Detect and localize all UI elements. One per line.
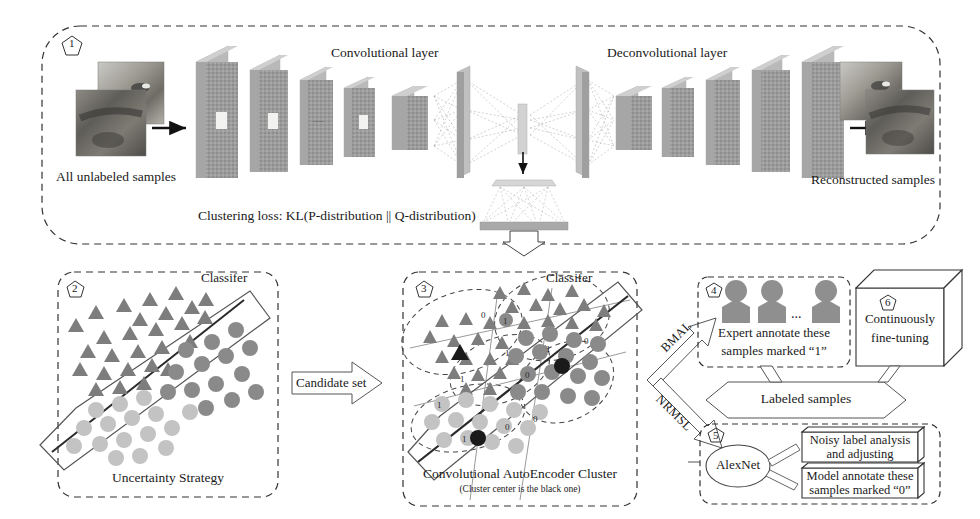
panel-2-triangles bbox=[68, 286, 214, 396]
convolutional-layer-label: Convolutional layer bbox=[331, 45, 439, 61]
expert-person-icons bbox=[722, 280, 840, 323]
svg-text:0: 0 bbox=[525, 370, 530, 380]
alexnet-to-box2-connector bbox=[766, 470, 798, 490]
model-annotate-line1: Model annotate these bbox=[800, 469, 920, 483]
svg-text:0: 0 bbox=[505, 422, 510, 432]
panel-2-classifier-label: Classifer bbox=[201, 271, 247, 286]
person-icon bbox=[758, 280, 786, 323]
svg-text:0: 0 bbox=[584, 336, 589, 346]
expert-annotate-line1: Expert annotate these bbox=[700, 326, 848, 341]
cae-cluster-subcaption: (Cluster center is the black one) bbox=[400, 484, 640, 495]
svg-text:1: 1 bbox=[462, 434, 467, 444]
deconvolutional-layer-label: Deconvolutional layer bbox=[607, 45, 727, 61]
panel-5-marker-label: 5 bbox=[713, 429, 719, 442]
panel4-to-labeled-connector bbox=[760, 366, 782, 382]
continuously-line1: Continuously bbox=[856, 312, 944, 327]
svg-text:1: 1 bbox=[546, 344, 551, 354]
reconstructed-samples-label: Reconstructed samples bbox=[793, 172, 953, 188]
cluster-head bbox=[480, 180, 568, 230]
input-sample-images bbox=[76, 62, 164, 156]
svg-text:1: 1 bbox=[460, 374, 465, 384]
panel-3-classifier-label: Classifer bbox=[546, 271, 592, 286]
panel-6-marker-label: 6 bbox=[885, 296, 891, 309]
panel-2-circles-dark bbox=[160, 322, 264, 416]
noisy-label-line2: and adjusting bbox=[802, 447, 918, 461]
svg-text:......: ...... bbox=[313, 116, 324, 124]
all-unlabeled-samples-label: All unlabeled samples bbox=[46, 169, 186, 185]
expert-ellipsis: ... bbox=[791, 306, 802, 322]
cluster-output-block-arrow bbox=[503, 231, 545, 256]
panel-1-marker-label: 1 bbox=[69, 37, 75, 50]
figure-canvas: ...... bbox=[0, 0, 980, 519]
noisy-label-line1: Noisy label analysis bbox=[802, 433, 918, 447]
alexnet-label: AlexNet bbox=[708, 458, 768, 473]
candidate-set-label: Candidate set bbox=[296, 376, 366, 391]
svg-text:0: 0 bbox=[533, 414, 538, 424]
uncertainty-strategy-caption: Uncertainty Strategy bbox=[98, 470, 238, 486]
svg-text:1: 1 bbox=[505, 348, 510, 358]
alexnet-to-box1-connector bbox=[768, 444, 800, 466]
svg-text:1: 1 bbox=[503, 316, 508, 326]
panel-2-marker-label: 2 bbox=[72, 282, 78, 295]
panel6-to-labeled-connector bbox=[878, 366, 900, 382]
panel-4-marker-label: 4 bbox=[711, 284, 717, 297]
expert-annotate-line2: samples marked “1” bbox=[700, 344, 848, 359]
svg-text:1: 1 bbox=[437, 400, 442, 410]
fine-tuning-line2: fine-tuning bbox=[856, 331, 944, 346]
svg-text:0: 0 bbox=[481, 310, 486, 320]
deconvolutional-layers bbox=[616, 46, 844, 178]
person-icon bbox=[722, 280, 750, 323]
cae-cluster-caption: Convolutional AutoEncoder Cluster bbox=[400, 466, 640, 482]
clustering-loss-label: Clustering loss: KL(P-distribution || Q-… bbox=[198, 208, 476, 224]
labeled-samples-label: Labeled samples bbox=[736, 391, 876, 407]
person-icon bbox=[812, 280, 840, 323]
reconstructed-sample-images bbox=[840, 62, 934, 154]
panel-3-marker-label: 3 bbox=[421, 282, 427, 295]
model-annotate-line2: samples marked “0” bbox=[800, 483, 920, 497]
convolutional-layers: ...... bbox=[196, 46, 428, 178]
